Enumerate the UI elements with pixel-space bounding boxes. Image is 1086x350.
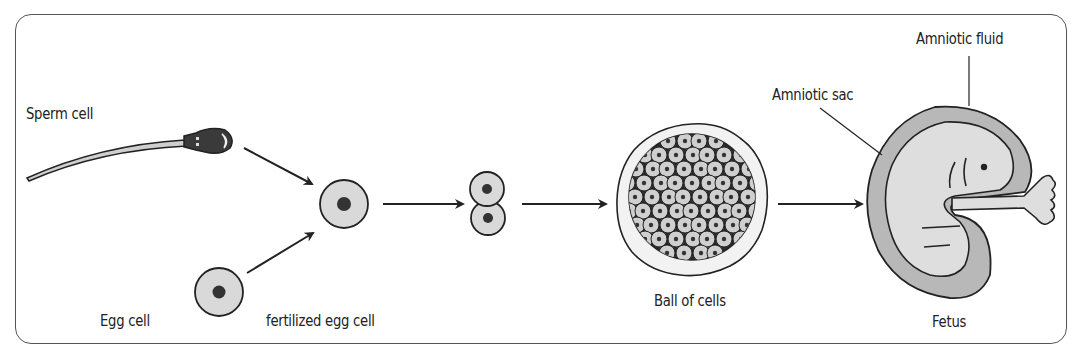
two-cell-stage-icon	[470, 172, 505, 235]
arrow-sperm-to-fertilized	[244, 148, 312, 184]
fetus-icon	[820, 56, 1055, 298]
fertilized-egg-icon	[320, 180, 368, 228]
arrow-egg-to-fertilized	[247, 233, 313, 273]
ball-of-cells-icon	[617, 124, 767, 276]
egg-cell-icon	[195, 268, 243, 316]
label-amniotic-sac: Amniotic sac	[772, 86, 853, 104]
label-sperm-cell: Sperm cell	[26, 105, 93, 123]
label-amniotic-fluid: Amniotic fluid	[916, 30, 1003, 48]
label-egg-cell: Egg cell	[100, 312, 150, 330]
label-fetus: Fetus	[932, 313, 966, 331]
development-diagram	[0, 0, 1086, 350]
label-fertilized-egg-cell: fertilized egg cell	[266, 312, 375, 330]
label-ball-of-cells: Ball of cells	[654, 292, 726, 310]
sperm-cell-icon	[27, 129, 232, 181]
